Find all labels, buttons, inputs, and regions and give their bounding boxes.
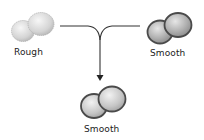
diagram-canvas	[0, 0, 204, 140]
merge-connector	[60, 26, 140, 75]
arrow-down-icon	[97, 75, 104, 81]
smooth-result-bacterium-icon	[81, 87, 126, 119]
smooth-result-label: Smooth	[84, 124, 119, 134]
smooth-top-label: Smooth	[150, 48, 185, 58]
rough-bacterium-icon	[12, 13, 55, 42]
smooth-bacterium-icon	[148, 13, 192, 44]
rough-label: Rough	[14, 47, 43, 57]
